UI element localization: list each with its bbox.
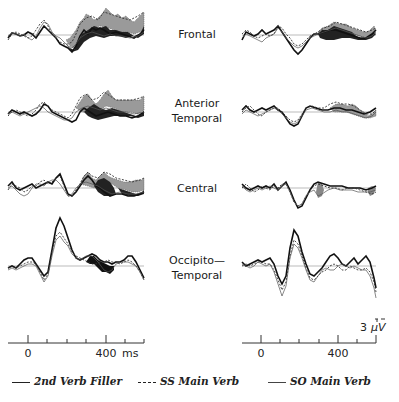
scale-value: 3 (360, 321, 367, 334)
legend-item-filler: 2nd Verb Filler (12, 375, 122, 387)
panel-central-right (242, 182, 376, 208)
tick-label-400-left: 400 (96, 347, 117, 360)
tick-label-400-right: 400 (328, 347, 349, 360)
panel-anterior-temporal-right (242, 102, 376, 126)
panel-occipito-temporal-right (242, 230, 376, 298)
solid-thick-line-icon (12, 382, 30, 383)
legend: 2nd Verb Filler SS Main Verb SO Main Ver… (0, 375, 399, 393)
tick-label-0-left: 0 (25, 347, 32, 360)
panel-anterior-temporal-left (8, 90, 144, 122)
legend-item-so: SO Main Verb (268, 375, 371, 387)
voltage-scale-bar: 3 μV (360, 319, 387, 334)
tick-label-0-right: 0 (258, 347, 265, 360)
scale-unit: μV (370, 321, 387, 334)
solid-thin-line-icon (268, 382, 286, 383)
panel-frontal-left (8, 8, 144, 52)
site-label-anterior-temporal: Anterior Temporal (152, 96, 242, 126)
time-axis-left: 0 400 ms (8, 335, 144, 360)
panel-occipito-temporal-left (8, 218, 144, 282)
site-label-central: Central (152, 181, 242, 196)
panel-frontal-right (242, 22, 376, 54)
erp-figure: 0 400 ms (0, 0, 399, 402)
time-axis-right: 0 400 (242, 335, 376, 360)
unit-label-ms: ms (122, 347, 139, 360)
site-label-occipito-temporal: Occipito— Temporal (152, 253, 242, 283)
site-label-frontal: Frontal (152, 27, 242, 42)
panel-central-left (8, 172, 144, 196)
legend-item-ss: SS Main Verb (138, 375, 239, 387)
dashed-line-icon (138, 382, 156, 383)
